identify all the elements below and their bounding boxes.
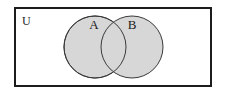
venn-diagram-figure: U A B <box>0 0 225 95</box>
set-b-label: B <box>128 17 137 32</box>
venn-diagram-canvas: U A B <box>0 0 225 95</box>
set-a-label: A <box>89 17 99 32</box>
universal-set-label: U <box>22 14 31 28</box>
